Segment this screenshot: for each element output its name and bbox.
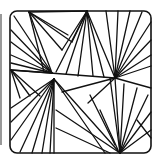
tile-drawing bbox=[0, 0, 162, 162]
